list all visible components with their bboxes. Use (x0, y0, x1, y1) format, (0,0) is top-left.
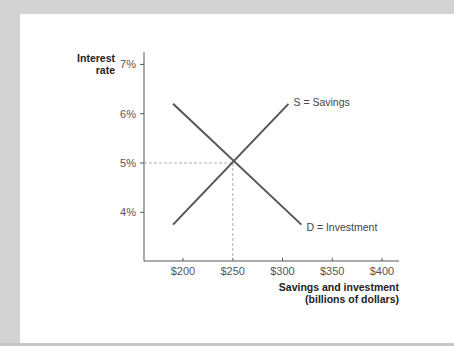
y-tick-label: 6% (120, 108, 136, 120)
x-tick-label: $400 (370, 265, 394, 277)
curves: S = SavingsD = Investment (173, 96, 377, 233)
equilibrium-guides (144, 163, 233, 261)
savings-curve (173, 104, 288, 225)
y-axis-title-line1: Interest (77, 52, 115, 64)
investment-curve (173, 104, 301, 225)
savings-label: S = Savings (293, 96, 349, 108)
x-axis-title-line1: Savings and investment (279, 281, 400, 293)
y-tick-label: 4% (120, 206, 136, 218)
y-tick-label: 5% (120, 157, 136, 169)
x-axis-title-line2: (billions of dollars) (305, 293, 399, 305)
savings-investment-chart: 7%6%5%4% $200$250$300$350$400 S = Saving… (0, 0, 454, 346)
y-axis-title-line2: rate (96, 64, 115, 76)
x-tick-label: $250 (221, 265, 245, 277)
investment-label: D = Investment (306, 221, 377, 233)
x-tick-label: $350 (320, 265, 344, 277)
y-tick-label: 7% (120, 58, 136, 70)
y-axis-ticks: 7%6%5%4% (120, 58, 144, 218)
x-tick-label: $200 (171, 265, 195, 277)
x-tick-label: $300 (270, 265, 294, 277)
